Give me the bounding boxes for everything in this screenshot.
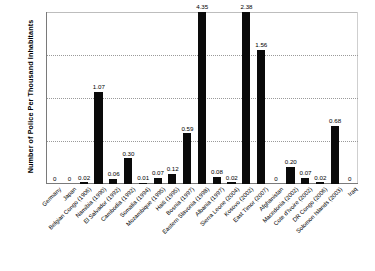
bar	[168, 174, 176, 184]
bar-slot: 0.20	[283, 12, 298, 184]
bar	[242, 12, 250, 184]
bar-slot: 0.02	[77, 12, 92, 184]
bar	[257, 50, 265, 184]
bar	[198, 12, 206, 184]
bar-slot: 0.68	[327, 12, 342, 184]
bar-slot: 0.02	[313, 12, 328, 184]
bar-slot: 0.08	[209, 12, 224, 184]
bar-slot: 0	[47, 12, 62, 184]
bar-slot: 2.38	[239, 12, 254, 184]
bar-slot: 0	[342, 12, 357, 184]
bar-slot: 1.07	[91, 12, 106, 184]
bar	[227, 182, 235, 184]
bar-value-label: 2.38	[230, 4, 264, 10]
bar-slot: 0.07	[150, 12, 165, 184]
bar-slot: 1.56	[254, 12, 269, 184]
bar-slot: 0.01	[136, 12, 151, 184]
bar-value-label: 4.35	[185, 4, 219, 10]
bar	[109, 179, 117, 184]
bar	[183, 133, 191, 184]
bar-value-label: 0	[333, 176, 367, 182]
bar-slot: 0	[62, 12, 77, 184]
bar-slot: 4.35	[195, 12, 210, 184]
bar	[316, 182, 324, 184]
bar	[331, 126, 339, 184]
bar	[154, 178, 162, 184]
bar	[139, 183, 147, 184]
bar	[80, 182, 88, 184]
y-axis-title: Number of Police Per Thousand Inhabitant…	[26, 7, 35, 187]
bar-slot: 0.02	[224, 12, 239, 184]
bar-slot: 0.59	[180, 12, 195, 184]
bar-slot: 0.12	[165, 12, 180, 184]
bar-slot: 0.30	[121, 12, 136, 184]
bar-slot: 0.06	[106, 12, 121, 184]
bar-slot: 0.07	[298, 12, 313, 184]
bar-chart: Number of Police Per Thousand Inhabitant…	[0, 0, 375, 271]
bar-series: 000.021.070.060.300.010.070.120.594.350.…	[47, 12, 357, 184]
